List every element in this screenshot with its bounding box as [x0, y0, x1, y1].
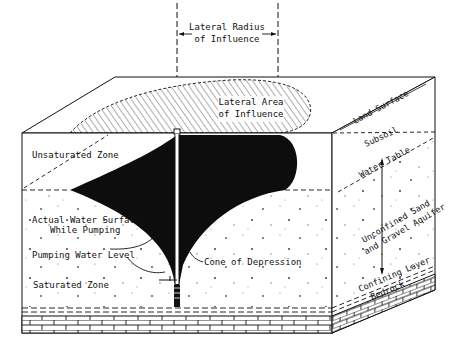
lateral-area-label-2: of Influence [218, 109, 283, 119]
bedrock-front [22, 308, 332, 333]
saturated-zone-label: Saturated Zone [33, 280, 109, 290]
lateral-radius-label: Lateral Radius [189, 22, 265, 32]
cone-of-depression-label: Cone of Depression [204, 257, 302, 267]
lateral-radius-label-2: of Influence [194, 34, 259, 44]
actual-water-surface-label: Actual Water Surface [32, 215, 140, 225]
pumping-water-level-label: Pumping Water Level [32, 250, 135, 260]
unsaturated-zone-label: Unsaturated Zone [32, 150, 119, 160]
lateral-area-label: Lateral Area [218, 97, 283, 107]
actual-water-surface-label-2: While Pumping [50, 225, 120, 235]
aquifer-diagram: Lateral Radius of Influence Lateral Area… [0, 0, 454, 345]
